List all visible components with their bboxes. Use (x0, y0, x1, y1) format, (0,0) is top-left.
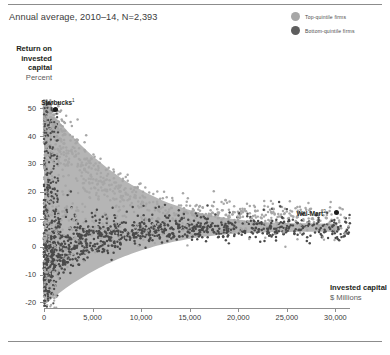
bottom-divider-rule (8, 341, 382, 342)
scatter-point (223, 226, 226, 229)
scatter-point (145, 231, 147, 233)
scatter-point (119, 172, 122, 175)
y-tick-mark (40, 108, 44, 109)
scatter-point (61, 267, 64, 270)
scatter-point (269, 226, 272, 229)
scatter-point (293, 233, 296, 236)
scatter-point (48, 179, 50, 181)
scatter-point (53, 114, 55, 116)
scatter-point (256, 223, 258, 225)
scatter-point (56, 129, 58, 131)
scatter-point (83, 141, 86, 144)
scatter-point (98, 246, 101, 249)
scatter-point (50, 169, 52, 171)
scatter-point (125, 193, 128, 196)
scatter-point (96, 243, 99, 246)
scatter-point (195, 216, 198, 219)
scatter-point (254, 210, 256, 213)
scatter-point (253, 223, 256, 226)
scatter-point (216, 208, 219, 211)
y-tick-label: 20 (12, 187, 36, 196)
scatter-point (95, 211, 97, 213)
scatter-point (66, 194, 68, 196)
scatter-point (70, 238, 72, 240)
scatter-point (65, 216, 67, 218)
scatter-point (131, 202, 134, 205)
scatter-point (75, 177, 78, 180)
scatter-point (244, 227, 246, 229)
scatter-point (144, 219, 146, 221)
scatter-point (186, 212, 189, 215)
scatter-point (157, 229, 160, 232)
scatter-point (44, 300, 46, 302)
scatter-point (294, 228, 297, 231)
scatter-point (250, 220, 253, 223)
scatter-point (157, 208, 160, 211)
scatter-point (172, 233, 175, 236)
scatter-point (167, 217, 169, 219)
scatter-point (47, 181, 49, 183)
scatter-point (325, 217, 328, 220)
x-tick-mark (335, 308, 336, 312)
scatter-point (239, 230, 241, 232)
scatter-point (63, 268, 66, 271)
scatter-point (111, 245, 113, 247)
scatter-point (55, 206, 57, 208)
scatter-point (88, 251, 91, 254)
scatter-point (121, 231, 124, 234)
scatter-point (178, 209, 180, 211)
scatter-point (240, 234, 243, 237)
scatter-point (74, 150, 77, 153)
scatter-point (257, 231, 260, 234)
y-tick-mark (40, 164, 44, 165)
scatter-point (45, 154, 47, 156)
scatter-point (123, 199, 126, 202)
scatter-point (64, 254, 67, 257)
scatter-point (168, 208, 170, 210)
scatter-point (337, 226, 339, 228)
scatter-point (159, 237, 161, 239)
scatter-point (45, 152, 47, 154)
scatter-point (228, 216, 230, 218)
scatter-point (62, 264, 64, 267)
scatter-point (43, 221, 45, 223)
scatter-point (75, 214, 77, 216)
scatter-point (50, 237, 52, 239)
scatter-point (286, 225, 288, 227)
scatter-point (65, 159, 68, 162)
scatter-point (99, 227, 102, 230)
scatter-point (161, 241, 164, 244)
scatter-point (126, 174, 129, 177)
scatter-point (50, 276, 52, 278)
scatter-point (340, 236, 342, 238)
scatter-point (65, 209, 67, 211)
scatter-point (54, 295, 56, 297)
scatter-point (43, 305, 45, 307)
scatter-point (258, 222, 261, 225)
scatter-point (145, 225, 148, 228)
scatter-point (279, 205, 281, 207)
x-tick-label: 30,000 (324, 313, 347, 322)
scatter-point (154, 242, 156, 244)
scatter-point (296, 234, 299, 237)
scatter-point (71, 258, 74, 261)
scatter-point (44, 217, 46, 219)
scatter-point (326, 214, 329, 217)
scatter-point (199, 210, 202, 213)
scatter-point (261, 232, 264, 235)
scatter-point (60, 219, 62, 221)
scatter-point (85, 170, 88, 173)
scatter-point (280, 213, 283, 216)
scatter-point (338, 219, 340, 221)
scatter-point (65, 249, 67, 251)
scatter-point (318, 231, 321, 234)
scatter-point (132, 206, 134, 208)
scatter-point (67, 164, 70, 167)
scatter-point (43, 208, 45, 210)
scatter-point (79, 169, 82, 172)
scatter-point (44, 189, 46, 191)
scatter-point (206, 218, 208, 220)
scatter-point (154, 207, 156, 209)
scatter-point (124, 229, 127, 232)
scatter-point (260, 216, 263, 219)
